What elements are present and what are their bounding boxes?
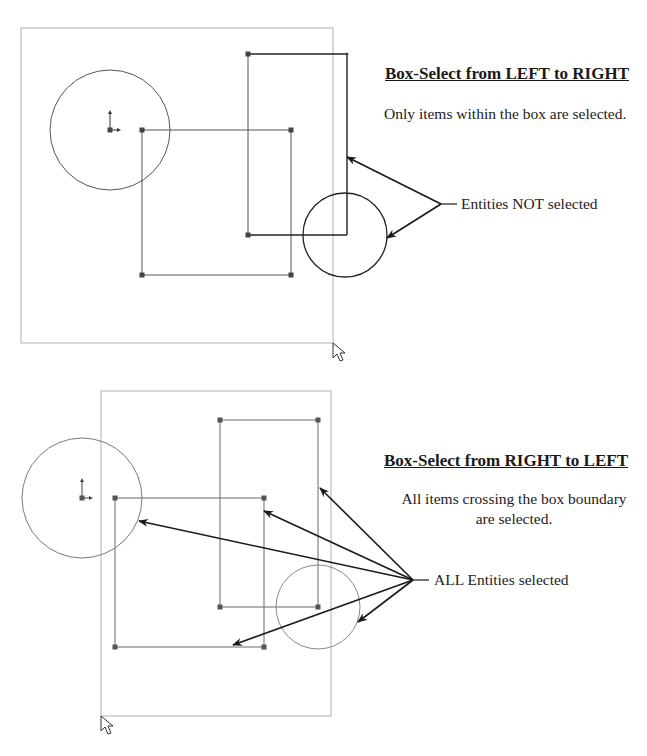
- mouse-cursor-icon: [333, 343, 345, 361]
- description-line-2: are selected.: [380, 509, 647, 529]
- selection-box-right-to-left[interactable]: [101, 391, 331, 716]
- heading-left-to-right: Box-Select from LEFT to RIGHT: [385, 64, 629, 84]
- rect-entity-square[interactable]: [142, 130, 291, 275]
- origin-icon: [80, 478, 94, 501]
- bottom-panel-sketch: [22, 391, 429, 734]
- description-left-to-right: Only items within the box are selected.: [384, 104, 634, 124]
- heading-right-to-left: Box-Select from RIGHT to LEFT: [384, 451, 628, 471]
- sketch-endpoints: [113, 418, 321, 650]
- callout-entities-not-selected: Entities NOT selected: [461, 195, 598, 213]
- rect-entity-tall-unselected[interactable]: [248, 54, 347, 235]
- selection-box-left-to-right[interactable]: [21, 28, 333, 343]
- callout-all-entities-selected: ALL Entities selected: [434, 571, 569, 589]
- description-line-1: All items crossing the box boundary: [380, 489, 647, 509]
- description-right-to-left: All items crossing the box boundary are …: [380, 489, 647, 529]
- sketch-endpoints: [140, 52, 349, 278]
- origin-icon: [108, 110, 122, 133]
- mouse-cursor-icon: [101, 716, 113, 734]
